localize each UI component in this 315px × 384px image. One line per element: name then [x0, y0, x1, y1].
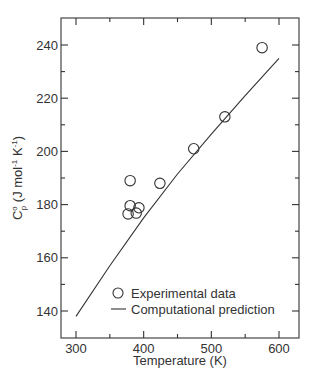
experimental-data-points	[123, 42, 267, 219]
data-point-circle	[189, 144, 199, 154]
prediction-polyline	[76, 58, 279, 316]
x-axis-title: Temperature (K)	[133, 353, 227, 368]
y-tick-label: 200	[36, 144, 58, 159]
y-tick-label: 160	[36, 250, 58, 265]
y-tick-label: 140	[36, 304, 58, 319]
data-point-circle	[257, 42, 267, 52]
data-point-circle	[155, 178, 165, 188]
legend-label-computational: Computational prediction	[131, 302, 275, 317]
legend: Experimental dataComputational predictio…	[111, 286, 275, 317]
x-tick-label: 600	[268, 341, 290, 356]
legend-label-experimental: Experimental data	[131, 286, 237, 301]
y-tick-labels: 140160180200220240	[36, 38, 58, 319]
y-tick-label: 220	[36, 91, 58, 106]
x-tick-label: 300	[65, 341, 87, 356]
y-tick-label: 240	[36, 38, 58, 53]
legend-circle-icon	[113, 288, 123, 298]
y-axis-title: Cop (J mol-1 K-1)	[10, 136, 28, 220]
computational-prediction-line	[76, 58, 279, 316]
y-tick-label: 180	[36, 197, 58, 212]
data-point-circle	[220, 112, 230, 122]
chart: 300400500600 140160180200220240 Experime…	[0, 0, 315, 384]
data-point-circle	[125, 175, 135, 185]
